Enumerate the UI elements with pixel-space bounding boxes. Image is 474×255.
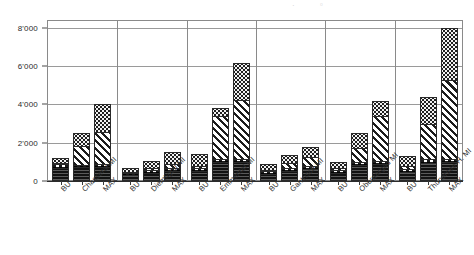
bar-segment-dotted — [192, 155, 207, 166]
bar-segment-dotted — [421, 98, 436, 126]
x-axis: BUChasseral MIMAXBUDiemtigtal MIMAXBUEmm… — [47, 181, 463, 255]
artifact-mark-1: · — [292, 1, 295, 10]
y-tick-label: 6'000 — [18, 62, 38, 71]
bar-segment-diagonal-hatch — [213, 117, 228, 160]
bar-segment-dotted — [373, 102, 388, 118]
bar-segment-diagonal-hatch — [373, 117, 388, 162]
bar-segment-dotted — [282, 156, 297, 164]
bar-segment-dotted — [234, 64, 249, 102]
bar-mi-1[interactable] — [73, 133, 90, 181]
bar-segment-dotted — [74, 134, 89, 147]
bar-mi-6[interactable] — [420, 97, 437, 181]
bar-segment-dotted — [442, 29, 457, 82]
bar-segment-dotted — [95, 105, 110, 133]
y-tick-label: 0 — [33, 177, 38, 186]
bar-segment-dotted — [213, 109, 228, 117]
y-tick-label: 4'000 — [18, 100, 38, 109]
bar-segment-diagonal-hatch — [352, 149, 367, 163]
bar-mi-3[interactable] — [212, 108, 229, 181]
y-tick-label: 2'000 — [18, 138, 38, 147]
y-tick-label: 8'000 — [18, 23, 38, 32]
bar-segment-diagonal-hatch — [74, 147, 89, 166]
bar-segment-diagonal-hatch — [234, 101, 249, 160]
artifact-mark-2: ▫ — [320, 0, 323, 9]
bar-bu-4[interactable] — [260, 164, 277, 181]
bar-segment-diagonal-hatch — [421, 125, 436, 160]
bar-segment-diagonal-hatch — [442, 81, 457, 159]
bar-segment-dotted — [352, 134, 367, 149]
bar-segment-dotted — [303, 148, 318, 158]
bar-bu-5[interactable] — [330, 162, 347, 181]
bar-mi-4[interactable] — [281, 155, 298, 181]
bar-mi-5[interactable] — [351, 133, 368, 181]
bar-segment-dotted — [400, 157, 415, 167]
bar-segment-dotted — [144, 162, 159, 169]
bar-bu-6[interactable] — [399, 156, 416, 181]
bar-bu-3[interactable] — [191, 154, 208, 181]
y-axis: 02'0004'0006'0008'000 — [0, 20, 47, 181]
bar-bu-1[interactable] — [52, 158, 69, 181]
scan-artifacts: · ▫ — [0, 0, 470, 14]
